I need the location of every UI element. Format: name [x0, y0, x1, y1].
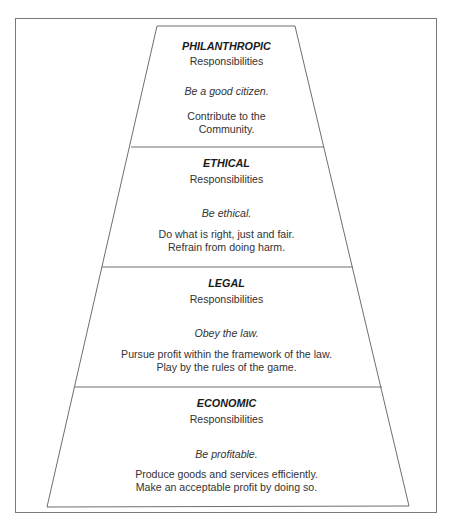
- tier-description-line-2: Play by the rules of the game.: [0, 361, 453, 374]
- tier-description-line-2: Community.: [0, 123, 453, 136]
- tier-motto: Be ethical.: [0, 207, 453, 220]
- tier-description-line-1: Contribute to the: [0, 110, 453, 123]
- tier-motto: Be a good citizen.: [0, 85, 453, 98]
- tier-subtitle: Responsibilities: [0, 293, 453, 306]
- tier-motto: Be profitable.: [0, 448, 453, 461]
- tier-name: ECONOMIC: [0, 397, 453, 410]
- tier-description-line-2: Make an acceptable profit by doing so.: [0, 481, 453, 494]
- tier-name: LEGAL: [0, 277, 453, 290]
- tier-description-line-1: Produce goods and services efficiently.: [0, 468, 453, 481]
- tier-description-line-2: Refrain from doing harm.: [0, 241, 453, 254]
- tier-description-line-1: Pursue profit within the framework of th…: [0, 348, 453, 361]
- tier-motto: Obey the law.: [0, 327, 453, 340]
- tier-subtitle: Responsibilities: [0, 413, 453, 426]
- tier-subtitle: Responsibilities: [0, 55, 453, 68]
- tier-name: ETHICAL: [0, 157, 453, 170]
- tier-subtitle: Responsibilities: [0, 173, 453, 186]
- tier-name: PHILANTHROPIC: [0, 40, 453, 53]
- tier-description-line-1: Do what is right, just and fair.: [0, 228, 453, 241]
